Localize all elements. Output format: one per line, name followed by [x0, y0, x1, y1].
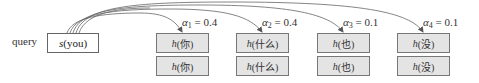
key-box-2: h(什么): [236, 33, 289, 53]
alpha-label-4: α4 = 0.1: [423, 16, 458, 30]
query-label: query: [12, 35, 37, 47]
alpha-label-3: α3 = 0.1: [343, 16, 378, 30]
alpha-label-1: α1 = 0.4: [182, 16, 217, 30]
value-box-2: h(什么): [236, 56, 289, 76]
value-box-3: h(也): [317, 56, 370, 76]
key-box-3: h(也): [317, 33, 370, 53]
query-arg: (you): [63, 37, 87, 49]
alpha-label-2: α2 = 0.4: [262, 16, 297, 30]
arrow-to-key-1: [67, 13, 182, 33]
query-box: s(you): [47, 33, 99, 53]
value-box-1: h(你): [156, 56, 209, 76]
key-box-4: h(没): [397, 33, 450, 53]
value-box-4: h(没): [397, 56, 450, 76]
key-box-1: h(你): [156, 33, 209, 53]
